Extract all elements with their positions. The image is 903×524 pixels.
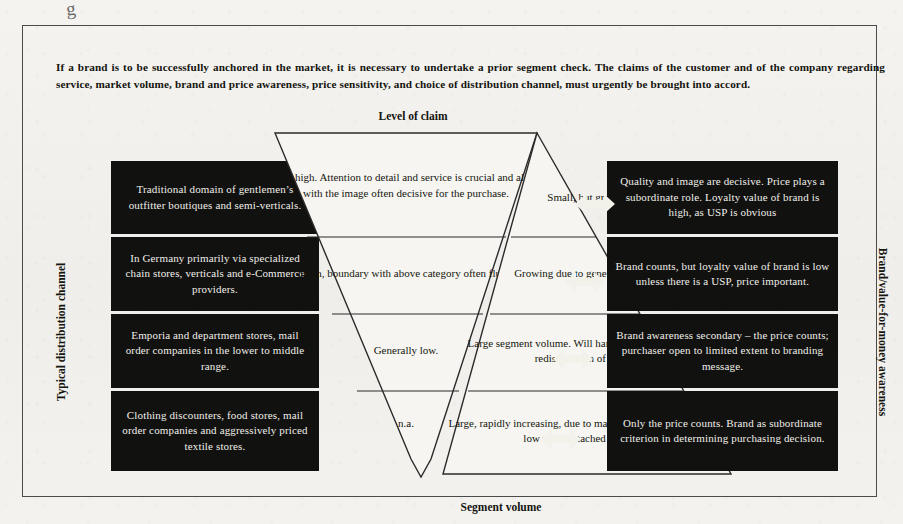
- table-row: Only the price counts. Brand as subordin…: [607, 391, 838, 471]
- axis-caption-segment-volume: Segment volume: [411, 501, 591, 513]
- double-arrow-icon: [563, 269, 607, 295]
- axis-caption-level-of-claim: Level of claim: [323, 110, 503, 122]
- matrix-stage: Traditional domain of gentlemen’s outfit…: [111, 129, 838, 481]
- double-arrow-icon: [573, 191, 617, 217]
- stray-mark: g: [65, 0, 77, 20]
- diagram-frame: If a brand is to be successfully anchore…: [22, 25, 877, 497]
- cell-brand-awareness-4: Only the price counts. Brand as subordin…: [615, 416, 830, 447]
- column-brand-awareness: Quality and image are decisive. Price pl…: [607, 161, 838, 478]
- intro-paragraph: If a brand is to be successfully anchore…: [56, 59, 885, 92]
- double-arrow-icon: [539, 426, 583, 452]
- table-row: Quality and image are decisive. Price pl…: [607, 161, 838, 234]
- double-arrow-icon: [551, 346, 595, 372]
- axis-caption-distribution-channel: Typical distribution channel: [55, 232, 67, 432]
- cell-brand-awareness-2: Brand counts, but loyalty value of brand…: [615, 259, 830, 290]
- table-row: Brand counts, but loyalty value of brand…: [607, 237, 838, 311]
- cell-brand-awareness-3: Brand awareness secondary – the price co…: [615, 328, 830, 375]
- table-row: Brand awareness secondary – the price co…: [607, 314, 838, 388]
- cell-brand-awareness-1: Quality and image are decisive. Price pl…: [615, 174, 830, 221]
- axis-caption-brand-awareness: Brand/value-for-money awareness: [877, 207, 889, 457]
